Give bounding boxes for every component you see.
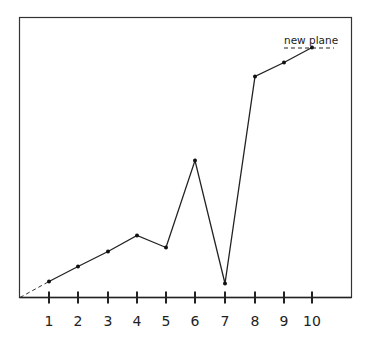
data-point	[253, 75, 257, 79]
x-tick-label: 9	[280, 313, 289, 329]
origin-extension-dashed-line	[20, 282, 49, 298]
x-tick-label: 3	[104, 313, 113, 329]
data-point	[223, 282, 227, 286]
data-line	[49, 48, 312, 284]
new-plane-annotation: new plane	[284, 34, 338, 46]
data-point	[282, 61, 286, 65]
chart-frame	[20, 18, 352, 298]
x-tick-label: 4	[133, 313, 142, 329]
x-tick-label: 1	[45, 313, 54, 329]
x-tick-label: 8	[251, 313, 260, 329]
data-point	[47, 280, 51, 284]
data-point	[164, 246, 168, 250]
data-point	[193, 159, 197, 163]
data-point	[106, 250, 110, 254]
x-tick-label: 10	[303, 313, 321, 329]
x-tick-label: 5	[162, 313, 171, 329]
data-point	[135, 234, 139, 238]
x-axis-tick-labels: 12345678910	[45, 313, 321, 329]
x-tick-label: 2	[74, 313, 83, 329]
x-tick-label: 7	[221, 313, 230, 329]
line-chart: 12345678910 new plane	[0, 0, 371, 343]
data-points	[47, 46, 314, 286]
data-point	[76, 265, 80, 269]
x-tick-label: 6	[191, 313, 200, 329]
